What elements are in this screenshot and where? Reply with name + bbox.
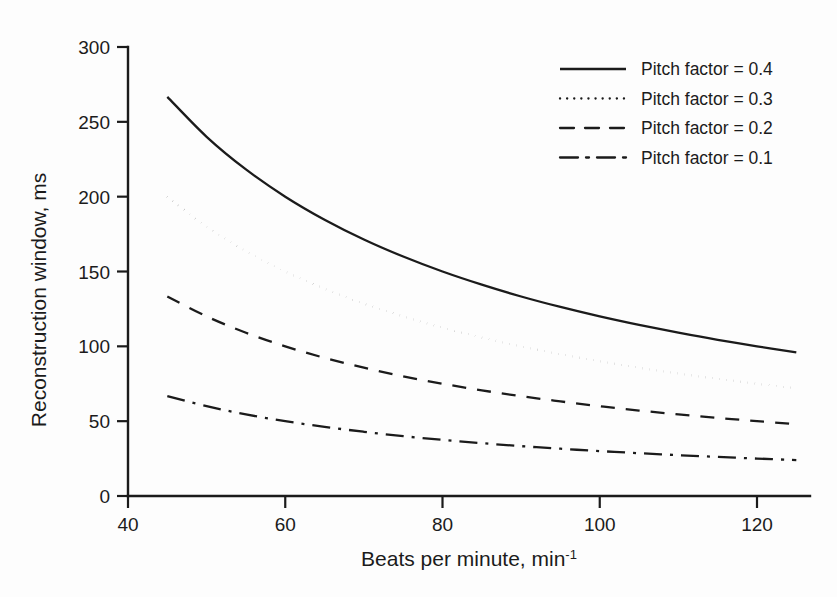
legend-label: Pitch factor = 0.2 — [641, 118, 773, 138]
series-line-0-2 — [167, 296, 796, 424]
chart-figure: 050100150200250300 406080100120 Beats pe… — [0, 0, 837, 597]
series-line-0-3 — [167, 197, 796, 389]
x-axis-title-superscript: -1 — [565, 547, 577, 562]
y-tick-label: 0 — [99, 486, 110, 507]
y-tick-label: 300 — [78, 37, 110, 58]
legend-item: Pitch factor = 0.2 — [560, 118, 773, 138]
x-tick-label: 40 — [117, 514, 138, 535]
legend-label: Pitch factor = 0.4 — [641, 59, 773, 79]
x-tick-label: 60 — [275, 514, 296, 535]
line-chart-canvas: 050100150200250300 406080100120 Beats pe… — [0, 0, 837, 597]
y-tick-label: 150 — [78, 262, 110, 283]
x-tick-label: 80 — [432, 514, 453, 535]
legend-item: Pitch factor = 0.4 — [560, 59, 773, 79]
y-axis-ticks: 050100150200250300 — [78, 37, 128, 507]
legend-label: Pitch factor = 0.3 — [641, 89, 773, 109]
x-axis-title-text: Beats per minute, min — [361, 547, 565, 570]
x-axis-title: Beats per minute, min-1 — [361, 547, 577, 570]
x-tick-label: 100 — [584, 514, 616, 535]
y-tick-label: 200 — [78, 187, 110, 208]
x-axis-ticks: 406080100120 — [117, 496, 772, 535]
y-axis-title: Reconstruction window, ms — [27, 173, 50, 427]
y-tick-label: 100 — [78, 336, 110, 357]
legend-label: Pitch factor = 0.1 — [641, 148, 773, 168]
legend-item: Pitch factor = 0.3 — [560, 89, 773, 109]
axes-group — [128, 47, 810, 496]
legend-item: Pitch factor = 0.1 — [560, 148, 773, 168]
y-tick-label: 250 — [78, 112, 110, 133]
series-line-0-1 — [167, 396, 796, 460]
legend: Pitch factor = 0.4Pitch factor = 0.3Pitc… — [560, 59, 773, 168]
y-tick-label: 50 — [89, 411, 110, 432]
x-tick-label: 120 — [741, 514, 773, 535]
